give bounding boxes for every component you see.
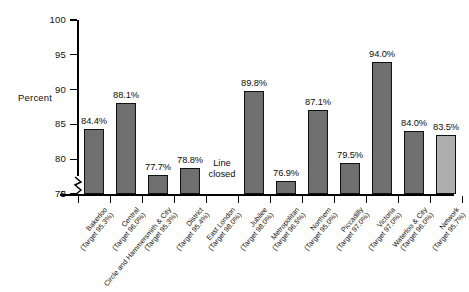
x-tick [398,196,399,203]
bar-jubilee [244,91,263,194]
y-tick-label-zero: 0 [18,188,66,199]
bar-network [436,135,455,194]
y-tick-label: 80 [18,153,66,164]
bar-value-label: 84.4% [74,116,114,126]
annotation-line-closed: Lineclosed [198,158,246,180]
x-tick [238,196,239,203]
bar-value-label: 83.5% [426,122,466,132]
x-tick [78,196,79,203]
bar-value-label: 88.1% [106,90,146,100]
chart-container: Percent 10095908580750 84.4%88.1%77.7%78… [0,0,469,292]
y-tick [70,89,77,90]
annotation-line-1: Line [213,158,231,168]
bar-waterloo-city [404,131,423,194]
bar-metropolitan [276,181,295,194]
x-tick [270,196,271,203]
bar-piccadilly [340,163,359,194]
bar-central [116,103,135,194]
x-tick [142,196,143,203]
x-tick [366,196,367,203]
x-tick [302,196,303,203]
x-tick [430,196,431,203]
y-tick [70,54,77,55]
y-tick-label: 95 [18,49,66,60]
y-tick-label: 85 [18,118,66,129]
bar-value-label: 79.5% [330,150,370,160]
bar-value-label: 89.8% [234,78,274,88]
bar-circle-and-hammersmith-city [148,175,167,194]
x-tick [174,196,175,203]
y-tick-label: 90 [18,84,66,95]
annotation-line-2: closed [209,169,236,179]
x-tick [462,196,463,203]
y-tick [70,19,77,20]
x-tick [110,196,111,203]
bar-value-label: 87.1% [298,97,338,107]
y-tick-label: 100 [18,14,66,25]
x-tick [334,196,335,203]
bar-district [180,168,199,194]
x-axis-line [60,194,454,196]
y-tick [70,159,77,160]
bar-northern [308,110,327,194]
bar-bakerloo [84,129,103,194]
x-tick [206,196,207,203]
bar-victoria [372,62,391,194]
bar-value-label: 76.9% [266,168,306,178]
bar-value-label: 94.0% [362,49,402,59]
plot-area: 84.4%88.1%77.7%78.8%Lineclosed89.8%76.9%… [78,20,462,194]
